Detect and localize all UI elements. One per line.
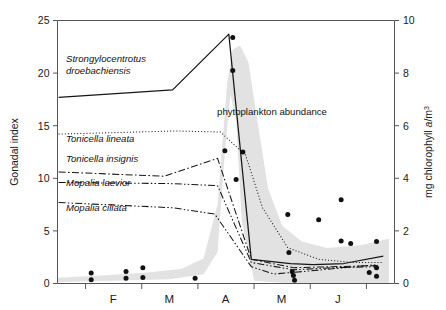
scatter-point: [140, 265, 145, 270]
y2-tick-label: 6: [403, 120, 409, 132]
y-tick-label: 20: [38, 67, 50, 79]
y-tick-label: 0: [44, 277, 50, 289]
y2-tick-label: 8: [403, 67, 409, 79]
scatter-point: [193, 276, 198, 281]
scatter-point: [374, 265, 379, 270]
x-tick-label-m-3: M: [277, 293, 287, 305]
series-label-mopalia-laevior: Mopalia laevior: [66, 177, 131, 188]
scatter-point: [124, 269, 129, 274]
scatter-point: [230, 35, 235, 40]
x-tick-label-a-2: A: [222, 293, 230, 305]
scatter-point: [339, 197, 344, 202]
annotation-phytoplankton-abundance: phytoplankton abundance: [217, 106, 327, 117]
x-tick-label-f-0: F: [110, 293, 117, 305]
scatter-point: [124, 276, 129, 281]
y-tick-label: 15: [38, 120, 50, 132]
scatter-point: [285, 212, 290, 217]
y2-axis-title: mg chlorophyll a/m3: [422, 106, 434, 198]
y2-tick-label: 10: [403, 14, 415, 26]
scatter-point: [222, 148, 227, 153]
chart-figure: 05101520250246810FMAMJGonadal indexmg ch…: [0, 0, 446, 310]
scatter-point: [140, 275, 145, 280]
scatter-point: [291, 273, 296, 278]
scatter-point: [292, 278, 297, 283]
scatter-point: [374, 239, 379, 244]
scatter-point: [230, 68, 235, 73]
y-tick-label: 25: [38, 14, 50, 26]
series-label-strongylocentrotus-droebachiensis: Strongylocentrotusdroebachiensis: [66, 53, 146, 76]
y-tick-label: 5: [44, 225, 50, 237]
phytoplankton-abundance-area: [58, 45, 389, 282]
scatter-point: [339, 238, 344, 243]
series-inline-labels: StrongylocentrotusdroebachiensisTonicell…: [66, 53, 327, 213]
scatter-point: [367, 270, 372, 275]
scatter-point: [348, 241, 353, 246]
y-axis-title: Gonadal index: [8, 117, 20, 185]
y2-tick-label: 2: [403, 225, 409, 237]
y2-tick-label: 0: [403, 277, 409, 289]
scatter-point: [374, 274, 379, 279]
series-label-tonicella-insignis: Tonicella insignis: [66, 153, 138, 164]
scatter-point: [240, 150, 245, 155]
gonadal-index-chlorophyll-chart: 05101520250246810FMAMJGonadal indexmg ch…: [0, 0, 446, 310]
series-label-tonicella-lineata: Tonicella lineata: [66, 133, 134, 144]
y-tick-label: 10: [38, 172, 50, 184]
scatter-point: [89, 277, 94, 282]
y2-tick-label: 4: [403, 172, 409, 184]
series-label-mopalia-ciliata: Mopalia ciliata: [66, 202, 127, 213]
scatter-point: [316, 217, 321, 222]
x-tick-label-j-4: J: [335, 293, 341, 305]
scatter-point: [89, 270, 94, 275]
phytoplankton-band: [58, 45, 389, 282]
scatter-point: [234, 177, 239, 182]
x-tick-label-m-1: M: [165, 293, 175, 305]
scatter-point: [286, 250, 291, 255]
